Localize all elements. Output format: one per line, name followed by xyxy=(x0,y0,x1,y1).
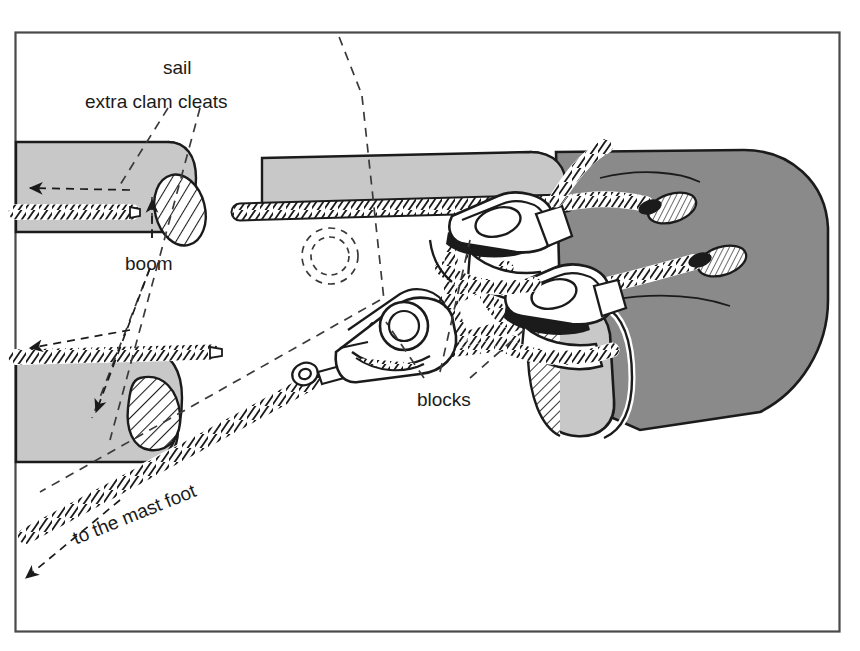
label-extra-clam-cleats: extra clam cleats xyxy=(85,92,228,111)
boom-lower-left xyxy=(16,352,182,462)
figure-canvas: sail extra clam cleats boom blocks to th… xyxy=(0,0,860,651)
label-boom: boom xyxy=(125,254,173,273)
label-sail: sail xyxy=(163,58,192,77)
rope-upper-left xyxy=(16,207,140,218)
label-blocks: blocks xyxy=(417,390,471,409)
